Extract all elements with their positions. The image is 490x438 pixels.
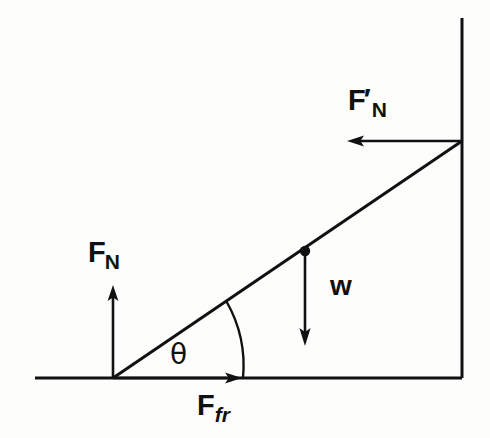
label-normal-ground: FN: [88, 238, 121, 267]
label-normal-ground-base: F: [88, 236, 106, 268]
vector-normal-ground: [108, 285, 119, 378]
vector-normal-wall: [347, 136, 462, 147]
diagram-canvas: [0, 0, 490, 438]
ladder-free-body-diagram: FN F′N w Ffr θ: [0, 0, 490, 438]
label-normal-wall-subscript: N: [372, 98, 387, 121]
label-normal-ground-subscript: N: [105, 250, 120, 273]
label-friction: Ffr: [197, 391, 230, 420]
label-normal-wall: F′N: [348, 86, 388, 115]
label-weight: w: [330, 272, 352, 300]
vector-friction: [113, 372, 242, 383]
angle-arc: [227, 302, 244, 379]
label-friction-subscript: fr: [215, 403, 230, 426]
label-angle-theta: θ: [170, 341, 187, 369]
ladder-line: [113, 141, 462, 378]
vector-weight: [299, 251, 310, 346]
label-friction-base: F: [197, 389, 215, 421]
label-normal-wall-prime: ′: [364, 83, 371, 115]
